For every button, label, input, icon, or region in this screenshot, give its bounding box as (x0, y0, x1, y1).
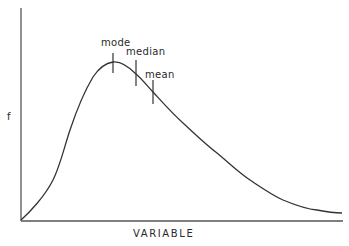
frequency-curve (21, 62, 342, 220)
median-label: median (126, 46, 165, 57)
x-axis-label: VARIABLE (133, 228, 194, 239)
mean-label: mean (145, 69, 175, 80)
y-axis-label: f (7, 111, 11, 122)
skewed-distribution-diagram (0, 0, 349, 246)
